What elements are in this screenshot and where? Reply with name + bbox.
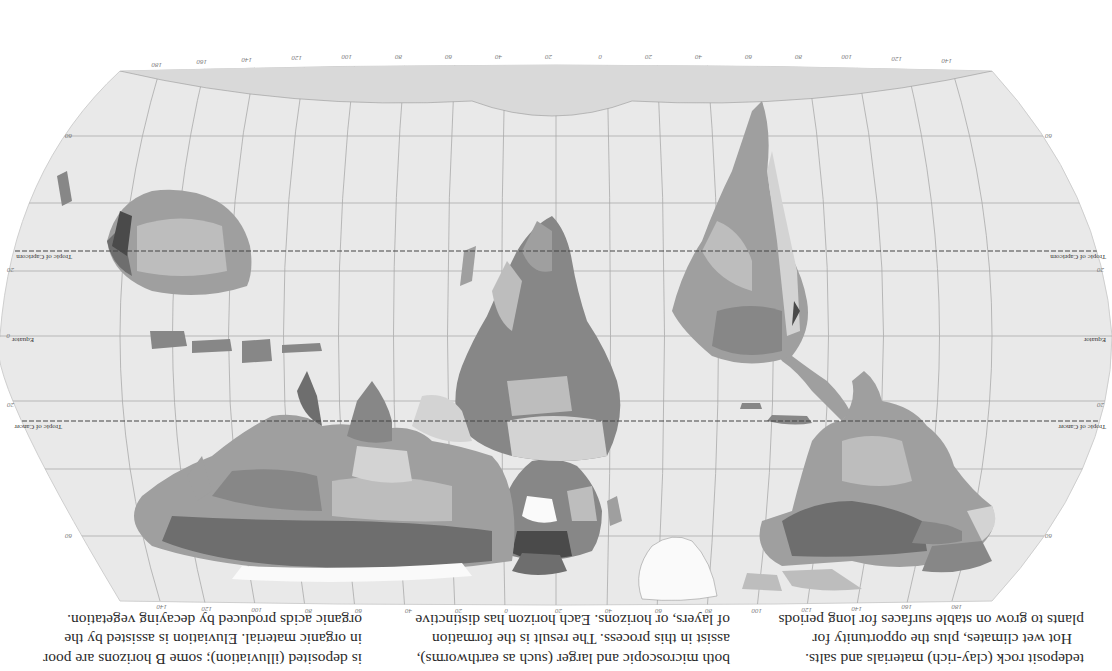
- svg-text:80: 80: [305, 607, 313, 615]
- tropic-of-cancer-label-left: Tropic of Cancer: [1058, 423, 1106, 431]
- svg-text:140: 140: [851, 605, 862, 613]
- svg-text:120: 120: [801, 606, 812, 614]
- svg-text:120: 120: [201, 605, 212, 613]
- equator-label-left: Equator: [1083, 336, 1106, 344]
- svg-text:40: 40: [695, 53, 703, 61]
- svg-text:40: 40: [605, 607, 613, 615]
- svg-text:0: 0: [598, 53, 602, 61]
- svg-text:0: 0: [504, 607, 508, 615]
- svg-text:140: 140: [941, 57, 952, 65]
- svg-text:60: 60: [1045, 132, 1053, 140]
- svg-text:80: 80: [395, 53, 403, 61]
- svg-text:0: 0: [6, 332, 10, 340]
- svg-text:60: 60: [445, 53, 453, 61]
- svg-text:100: 100: [251, 606, 262, 614]
- rotated-page: tedeposit rock (clay-rich) materials and…: [0, 0, 1112, 671]
- svg-text:100: 100: [841, 53, 852, 61]
- svg-text:20: 20: [7, 401, 15, 409]
- svg-text:80: 80: [705, 607, 713, 615]
- svg-text:100: 100: [751, 607, 762, 615]
- svg-text:60: 60: [655, 607, 663, 615]
- svg-text:100: 100: [341, 53, 352, 61]
- svg-text:20: 20: [645, 53, 653, 61]
- svg-text:60: 60: [355, 607, 363, 615]
- tropic-of-capricorn-label-left: Tropic of Capricorn: [1050, 253, 1106, 261]
- svg-text:20: 20: [455, 607, 463, 615]
- tropic-of-cancer-label-right: Tropic of Cancer: [14, 423, 62, 431]
- svg-text:20: 20: [1097, 266, 1105, 274]
- svg-text:40: 40: [495, 53, 503, 61]
- svg-text:180: 180: [151, 61, 162, 69]
- svg-text:140: 140: [156, 603, 167, 611]
- tropic-of-capricorn-label-right: Tropic of Capricorn: [16, 253, 72, 261]
- world-soil-map: Tropic of Cancer Tropic of Cancer Equato…: [0, 0, 1112, 671]
- svg-text:160: 160: [901, 603, 912, 611]
- svg-text:20: 20: [545, 53, 553, 61]
- svg-text:20: 20: [555, 607, 563, 615]
- svg-text:160: 160: [196, 58, 207, 66]
- svg-text:60: 60: [65, 132, 73, 140]
- svg-text:40: 40: [405, 607, 413, 615]
- svg-text:60: 60: [1045, 532, 1053, 540]
- svg-text:180: 180: [951, 603, 962, 611]
- svg-text:60: 60: [745, 53, 753, 61]
- svg-text:80: 80: [795, 53, 803, 61]
- svg-text:20: 20: [1097, 401, 1105, 409]
- svg-text:140: 140: [241, 56, 252, 64]
- svg-text:120: 120: [291, 54, 302, 62]
- svg-text:120: 120: [891, 55, 902, 63]
- equator-label-right: Equator: [11, 336, 34, 344]
- svg-text:60: 60: [65, 532, 73, 540]
- svg-text:20: 20: [7, 266, 15, 274]
